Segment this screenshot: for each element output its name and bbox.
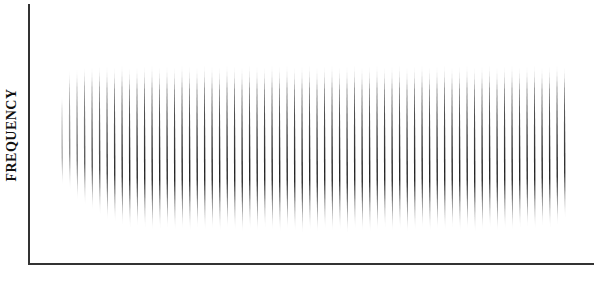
- spike: [271, 64, 272, 230]
- spike: [489, 64, 490, 228]
- spike: [549, 65, 550, 228]
- spike: [511, 64, 512, 230]
- spike: [451, 66, 452, 228]
- spike: [331, 64, 332, 231]
- spike: [76, 68, 77, 200]
- spike: [391, 65, 392, 231]
- spike: [61, 95, 62, 185]
- spike: [504, 65, 505, 229]
- spike: [106, 65, 107, 220]
- spike: [249, 64, 250, 229]
- spike: [241, 66, 242, 232]
- spike: [406, 66, 407, 232]
- spike: [181, 64, 182, 229]
- spike: [436, 65, 437, 229]
- spike: [211, 65, 212, 229]
- spike-series: [61, 64, 565, 233]
- spike: [294, 66, 295, 231]
- spike: [474, 66, 475, 232]
- spike: [421, 64, 422, 228]
- spike: [541, 66, 542, 226]
- spike: [526, 65, 527, 227]
- spike: [114, 66, 115, 222]
- spike: [481, 65, 482, 230]
- spike: [376, 64, 377, 230]
- spike: [519, 66, 520, 228]
- spike: [234, 65, 235, 230]
- spike: [301, 65, 302, 233]
- spike: [166, 65, 167, 228]
- spike: [556, 64, 557, 225]
- spike: [129, 67, 130, 228]
- spike: [324, 65, 325, 229]
- spike: [69, 70, 70, 190]
- spike: [316, 66, 317, 232]
- spike: [496, 66, 497, 231]
- spike: [99, 65, 100, 215]
- spike: [429, 66, 430, 231]
- spike: [444, 64, 445, 230]
- spike: [399, 64, 400, 229]
- spike: [136, 66, 137, 226]
- spike: [286, 64, 287, 229]
- spike: [84, 66, 85, 205]
- spike: [279, 65, 280, 232]
- spike: [414, 65, 415, 230]
- spike: [226, 64, 227, 228]
- spike: [369, 65, 370, 232]
- spike: [151, 64, 152, 230]
- spike: [354, 64, 355, 229]
- spike: [466, 64, 467, 229]
- spike: [264, 66, 265, 228]
- chart-plot-area: [0, 0, 604, 282]
- spike: [346, 65, 347, 233]
- spike: [459, 65, 460, 231]
- spike: [309, 64, 310, 230]
- spike: [384, 66, 385, 228]
- spike: [121, 64, 122, 225]
- spike: [564, 66, 565, 218]
- spike: [339, 66, 340, 230]
- spike: [196, 66, 197, 228]
- spike: [361, 66, 362, 231]
- spike: [534, 64, 535, 229]
- spike: [219, 66, 220, 231]
- spike: [91, 66, 92, 210]
- spike: [159, 66, 160, 229]
- spike: [204, 64, 205, 230]
- spike: [256, 65, 257, 231]
- spike: [144, 65, 145, 228]
- spike: [189, 65, 190, 231]
- spike: [174, 66, 175, 230]
